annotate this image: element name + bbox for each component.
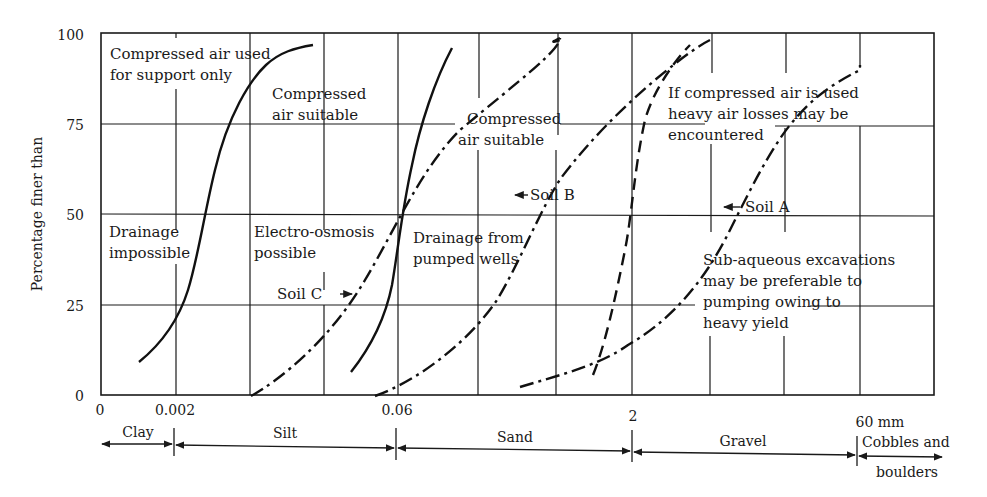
curve-soil-b — [375, 40, 710, 396]
ann-drainage-line2: impossible — [109, 244, 190, 262]
x-axis: 0 0.002 0.06 2 60 mm — [96, 402, 905, 430]
ann-electro-line1: Electro-osmosis — [254, 223, 375, 241]
ann-losses-line1: If compressed air is used — [668, 84, 859, 102]
ann-suitable2-line2: air suitable — [458, 131, 544, 149]
ann-drainage-line1: Drainage — [109, 223, 179, 241]
y-tick-100: 100 — [57, 27, 84, 43]
ann-subaqueous-line1: Sub-aqueous excavations — [703, 251, 895, 269]
range-silt: Silt — [273, 425, 298, 441]
ann-subaqueous-line2: may be preferable to — [703, 272, 862, 290]
label-soil-b: Soil B — [530, 186, 575, 204]
ann-support-line1: Compressed air used — [110, 45, 271, 63]
ann-losses-line2: heavy air losses may be — [668, 105, 848, 123]
ann-losses-line3: encountered — [668, 126, 764, 144]
ann-support-line2: for support only — [110, 66, 233, 84]
x-tick-0: 0 — [96, 402, 105, 418]
ann-suitable2-line1: Compressed — [467, 110, 562, 128]
y-axis-label: Percentage finer than — [29, 137, 45, 291]
x-tick-0002: 0.002 — [155, 402, 195, 418]
range-clay: Clay — [122, 424, 154, 440]
soil-range-labels: Clay Silt Sand Gravel Cobbles and boulde… — [122, 424, 950, 480]
label-soil-a: Soil A — [745, 198, 790, 216]
y-tick-25: 25 — [66, 298, 84, 314]
range-gravel: Gravel — [720, 433, 767, 449]
ann-suitable1-line1: Compressed — [272, 85, 367, 103]
x-tick-006: 0.06 — [381, 402, 412, 418]
label-soil-c: Soil C — [277, 285, 322, 303]
ann-pumped-line2: pumped wells — [413, 250, 518, 268]
ann-suitable1-line2: air suitable — [272, 106, 358, 124]
range-cobbles-line2: boulders — [876, 464, 938, 480]
x-tick-2: 2 — [629, 408, 638, 424]
y-tick-0: 0 — [75, 388, 84, 404]
range-sand: Sand — [497, 429, 533, 445]
grading-chart: 100 75 50 25 0 Percentage finer than 0 0… — [0, 0, 987, 497]
ann-pumped-line1: Drainage from — [413, 229, 524, 247]
y-tick-75: 75 — [66, 117, 84, 133]
soil-pointers — [340, 195, 740, 294]
y-axis: 100 75 50 25 0 Percentage finer than — [29, 27, 84, 404]
ann-subaqueous-line4: heavy yield — [703, 314, 789, 332]
ann-electro-line2: possible — [254, 244, 316, 262]
range-cobbles-line1: Cobbles and — [862, 434, 950, 450]
x-tick-60mm: 60 mm — [856, 414, 905, 430]
ann-subaqueous-line3: pumping owing to — [703, 293, 841, 311]
y-tick-50: 50 — [66, 207, 84, 223]
